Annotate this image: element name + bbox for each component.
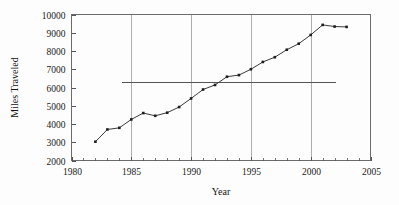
grid-lines [132,15,312,161]
data-point-2001 [321,24,324,27]
x-tick-label-1995: 1995 [242,167,261,177]
y-tick-label-9000: 9000 [47,29,66,39]
data-point-2000 [309,34,312,37]
data-point-1990 [190,97,193,100]
data-point-1989 [178,106,181,109]
x-tick-label-1985: 1985 [122,167,141,177]
data-point-1983 [106,128,109,131]
y-axis-title: Miles Traveled [9,57,20,117]
data-point-1992 [214,84,217,87]
series-markers [94,24,348,143]
y-tick-label-10000: 10000 [42,11,66,21]
data-point-1987 [154,114,157,117]
data-point-1999 [297,42,300,45]
data-point-2002 [333,25,336,28]
chart-container: 2000300040005000600070008000900010000 19… [0,0,399,205]
data-point-1993 [226,75,229,78]
data-point-1982 [94,140,97,143]
data-point-1996 [262,61,265,64]
data-point-1986 [142,112,145,115]
y-tick-label-5000: 5000 [47,102,66,112]
data-point-1998 [285,48,288,51]
miles-traveled-line-chart: 2000300040005000600070008000900010000 19… [0,0,399,205]
y-axis-tick-labels: 2000300040005000600070008000900010000 [42,11,66,167]
plot-frame [72,15,371,161]
data-point-1985 [130,118,133,121]
y-tick-label-7000: 7000 [47,65,66,75]
x-tick-label-2005: 2005 [362,167,381,177]
data-point-1995 [250,68,253,71]
data-point-1991 [202,88,205,91]
x-axis-title: Year [212,186,231,197]
plot-border [72,15,371,161]
y-tick-label-2000: 2000 [47,157,66,167]
y-tick-label-6000: 6000 [47,84,66,94]
series-line-miles-traveled [95,25,346,142]
y-tick-label-8000: 8000 [47,47,66,57]
x-tick-label-1990: 1990 [182,167,201,177]
y-axis-ticks [72,16,76,162]
data-point-1984 [118,127,121,130]
data-point-2003 [345,26,348,29]
x-axis-ticks [73,157,372,161]
x-axis-tick-labels: 198019851990199520002005 [63,167,381,177]
y-tick-label-4000: 4000 [47,120,66,130]
data-point-1988 [166,111,169,114]
y-tick-label-3000: 3000 [47,138,66,148]
data-point-1997 [274,56,277,59]
data-point-1994 [238,74,241,77]
x-tick-label-1980: 1980 [63,167,82,177]
data-series [94,24,348,143]
x-tick-label-2000: 2000 [302,167,321,177]
